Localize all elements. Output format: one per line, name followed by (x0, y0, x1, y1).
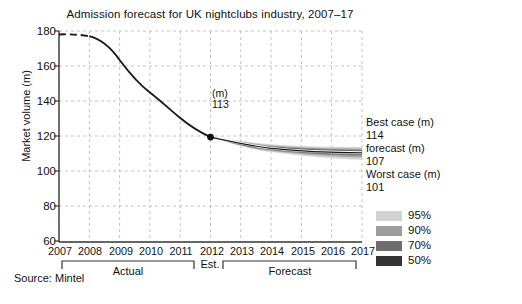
bracket-label-est: Est. (196, 258, 224, 270)
chart-figure: Admission forecast for UK nightclubs ind… (0, 0, 522, 304)
grid-vertical (89, 31, 362, 241)
legend-swatch-95-label: 95% (408, 209, 431, 221)
legend-forecast-label: forecast (m) (366, 142, 425, 154)
legend-swatch-70-label: 70% (408, 239, 431, 251)
bracket-label-forecast: Forecast (235, 265, 345, 277)
legend-swatch-90 (376, 226, 402, 236)
legend-worst-case-label: Worst case (m) (366, 168, 440, 180)
legend-best-case-label: Best case (m) (366, 116, 434, 128)
bracket-label-actual: Actual (68, 265, 188, 277)
annotation-2012-value: 113 (212, 99, 229, 110)
data-point-2012 (207, 134, 214, 141)
legend-swatch-70 (376, 241, 402, 251)
source-note: Source: Mintel (14, 272, 84, 284)
y-tick-marks (54, 31, 59, 241)
legend-best-case-value: 114 (366, 129, 384, 141)
legend-forecast-value: 107 (366, 155, 384, 167)
legend-band-95: 95% (376, 211, 468, 222)
legend-swatch-95 (376, 211, 402, 221)
historical-line-dashed (59, 34, 89, 36)
legend-worst-case-value: 101 (366, 181, 384, 193)
legend-band-70: 70% (376, 241, 468, 252)
legend-swatch-90-label: 90% (408, 224, 431, 236)
legend-band-90: 90% (376, 226, 468, 237)
